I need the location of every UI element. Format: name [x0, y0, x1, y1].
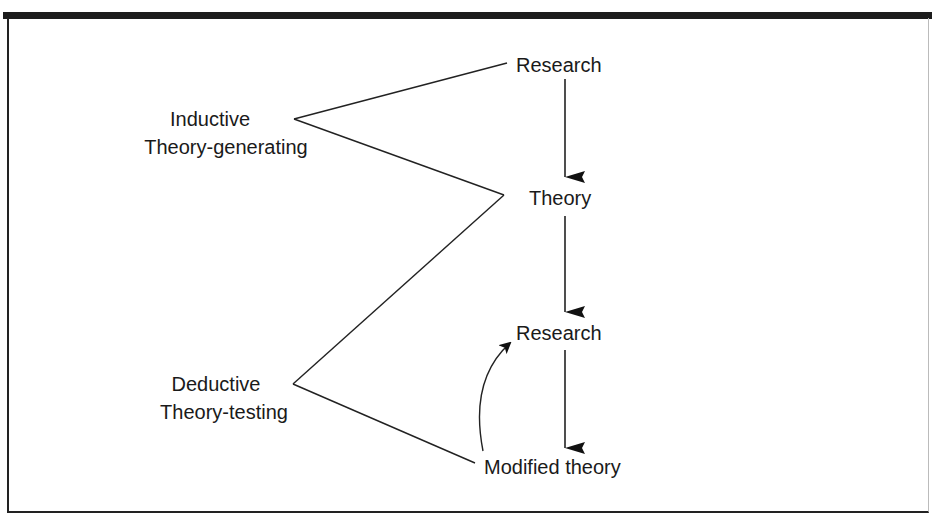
deductive-subtitle: Theory-testing: [148, 400, 308, 424]
deductive-title: Deductive: [148, 372, 308, 396]
inductive-title: Inductive: [140, 107, 312, 131]
node-theory: Theory: [529, 186, 591, 210]
label-inductive: Inductive Theory-generating: [140, 107, 312, 159]
arrow-modified-to-research: [480, 343, 510, 451]
node-research-top: Research: [516, 53, 602, 77]
diagram-lines: [0, 0, 932, 522]
node-modified-theory: Modified theory: [484, 455, 621, 479]
inductive-bracket: [294, 63, 507, 195]
deductive-bracket: [293, 195, 504, 463]
inductive-subtitle: Theory-generating: [140, 135, 312, 159]
node-research-mid: Research: [516, 321, 602, 345]
label-deductive: Deductive Theory-testing: [148, 372, 308, 424]
